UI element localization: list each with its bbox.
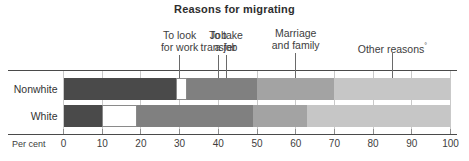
x-tick-label-100: 100 [431,138,469,149]
x-axis-label: Per cent [12,139,46,149]
chart-title: Reasons for migrating [0,3,469,15]
bar-segment-white-1 [64,105,103,127]
leader-line-1 [179,55,180,78]
x-tick-label-50: 50 [237,138,277,149]
chart-canvas: Reasons for migrating To lookfor workJob… [0,0,469,161]
bar-segment-nonwhite-4 [257,78,334,100]
row-label-nonwhite: Nonwhite [0,83,58,95]
bar-segment-nonwhite-5 [334,78,450,100]
x-tick-label-80: 80 [353,138,393,149]
tick-mark-70 [334,129,335,134]
bar-white [64,105,451,127]
bar-segment-nonwhite-2 [176,78,188,100]
bar-segment-nonwhite-3 [187,78,257,100]
axis-top-rule [8,70,457,71]
bar-segment-nonwhite-1 [64,78,176,100]
x-tick-label-10: 10 [82,138,122,149]
tick-mark-90 [411,129,412,134]
axis-bottom-rule [8,134,457,135]
bar-segment-white-2 [102,105,137,127]
row-label-white: White [0,110,58,122]
tick-mark-30 [179,129,180,134]
x-tick-label-90: 90 [392,138,432,149]
footnote-marker-icon: ° [424,42,427,49]
x-tick-label-20: 20 [121,138,161,149]
bar-segment-white-4 [253,105,307,127]
leader-line-3 [226,55,227,78]
tick-mark-10 [102,129,103,134]
x-tick-label-0: 0 [44,138,84,149]
x-tick-label-70: 70 [314,138,354,149]
x-tick-label-60: 60 [276,138,316,149]
leader-line-4 [295,53,296,78]
x-tick-label-40: 40 [198,138,238,149]
bar-segment-white-3 [137,105,253,127]
leader-line-2 [218,55,219,78]
tick-mark-20 [140,129,141,134]
x-tick-label-30: 30 [160,138,200,149]
tick-mark-60 [295,129,296,134]
leader-line-5 [392,53,393,78]
tick-mark-40 [218,129,219,134]
tick-mark-0 [63,129,64,134]
bar-segment-white-5 [307,105,450,127]
tick-mark-80 [373,129,374,134]
bar-nonwhite [64,78,451,100]
tick-mark-50 [257,129,258,134]
callout-line1: Marriage [275,27,316,39]
tick-mark-100 [450,129,451,134]
